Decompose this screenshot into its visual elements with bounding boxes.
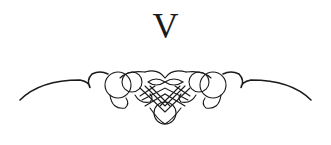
- flourish-ornament-icon: [0, 0, 331, 145]
